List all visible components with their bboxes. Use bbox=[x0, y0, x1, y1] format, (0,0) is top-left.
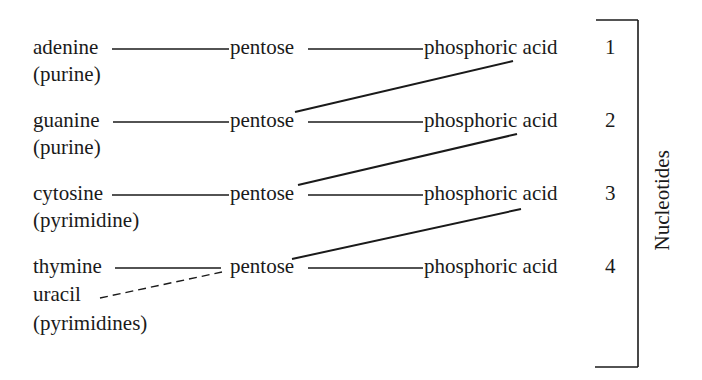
sugar-pentose-4: pentose bbox=[230, 256, 294, 277]
uracil-dashed-link bbox=[100, 272, 222, 298]
nucleotides-bracket bbox=[595, 20, 638, 367]
acid-phosphoric-3: phosphoric acid bbox=[424, 183, 558, 204]
sugar-pentose-2: pentose bbox=[230, 110, 294, 131]
base-thymine: thymine bbox=[33, 256, 102, 277]
number-1: 1 bbox=[605, 37, 616, 58]
link-1-2 bbox=[295, 61, 513, 112]
class-purine-1: (purine) bbox=[33, 64, 101, 85]
number-4: 4 bbox=[605, 256, 616, 277]
number-3: 3 bbox=[605, 183, 616, 204]
link-2-3 bbox=[298, 134, 517, 185]
link-3-4 bbox=[292, 209, 521, 259]
base-cytosine: cytosine bbox=[33, 183, 103, 204]
base-uracil: uracil bbox=[33, 284, 81, 305]
base-guanine: guanine bbox=[33, 110, 99, 131]
acid-phosphoric-4: phosphoric acid bbox=[424, 256, 558, 277]
class-purine-2: (purine) bbox=[33, 137, 101, 158]
acid-phosphoric-1: phosphoric acid bbox=[424, 37, 558, 58]
class-pyrimidine: (pyrimidine) bbox=[33, 210, 139, 231]
sugar-pentose-1: pentose bbox=[230, 37, 294, 58]
acid-phosphoric-2: phosphoric acid bbox=[424, 110, 558, 131]
class-pyrimidines: (pyrimidines) bbox=[33, 313, 147, 334]
number-2: 2 bbox=[605, 110, 616, 131]
sugar-pentose-3: pentose bbox=[230, 183, 294, 204]
base-adenine: adenine bbox=[33, 37, 98, 58]
bracket-label-nucleotides: Nucleotides bbox=[650, 151, 675, 251]
